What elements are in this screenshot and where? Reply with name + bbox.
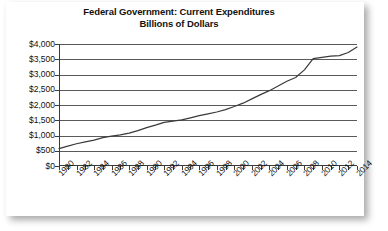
y-axis-tick-mark bbox=[55, 90, 59, 91]
series-line bbox=[59, 44, 357, 166]
chart-figure: Federal Government: Current Expenditures… bbox=[0, 0, 388, 231]
y-axis-tick-mark bbox=[55, 44, 59, 45]
data-line-current-expenditures bbox=[59, 47, 357, 149]
y-axis-tick-mark bbox=[55, 75, 59, 76]
y-axis-tick-label: $1,000 bbox=[0, 131, 55, 140]
y-axis-tick-mark bbox=[55, 136, 59, 137]
y-axis-tick-mark bbox=[55, 151, 59, 152]
y-axis-tick-label: $2,500 bbox=[0, 85, 55, 94]
y-axis-tick-label: $2,000 bbox=[0, 101, 55, 110]
y-axis-tick-label: $4,000 bbox=[0, 40, 55, 49]
y-axis-tick-mark bbox=[55, 105, 59, 106]
chart-title-block: Federal Government: Current Expenditures… bbox=[0, 6, 358, 30]
plot-area bbox=[59, 44, 357, 166]
y-axis-tick-label: $3,000 bbox=[0, 70, 55, 79]
y-axis-tick-label: $1,500 bbox=[0, 116, 55, 125]
y-axis-tick-label: $3,500 bbox=[0, 55, 55, 64]
y-axis-tick-mark bbox=[55, 59, 59, 60]
y-axis-tick-label: $500 bbox=[0, 146, 55, 155]
chart-title: Federal Government: Current Expenditures bbox=[0, 6, 358, 18]
y-axis-tick-mark bbox=[55, 120, 59, 121]
x-axis-labels: 1980198219841986198819901992199419961998… bbox=[59, 171, 379, 217]
chart-subtitle: Billions of Dollars bbox=[0, 18, 358, 30]
y-axis-tick-label: $0 bbox=[0, 162, 55, 171]
